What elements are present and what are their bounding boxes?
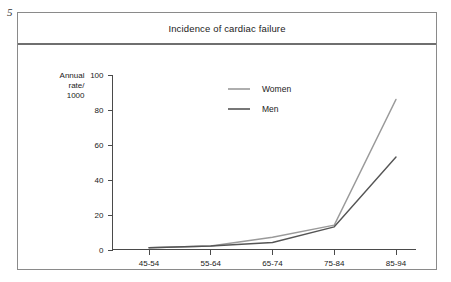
page-title: Incidence of cardiac failure [168,23,285,34]
chart-legend: WomenMen [228,84,291,114]
plot-area: 020406080100 45-5455-6465-7475-8485-94 A… [18,45,436,270]
x-tick-label: 55-64 [201,259,222,268]
y-tick-label: 60 [95,141,104,150]
legend-label-men: Men [262,104,279,114]
page-number: 5 [7,6,13,18]
x-tick-label: 85-94 [386,259,407,268]
x-tick-label: 65-74 [262,259,283,268]
figure-frame: Incidence of cardiac failure 02040608010… [17,12,437,270]
y-tick-label: 100 [90,71,104,80]
title-band: Incidence of cardiac failure [18,13,436,45]
legend-label-women: Women [262,84,291,94]
line-chart: 020406080100 45-5455-6465-7475-8485-94 A… [18,45,436,270]
x-tick-label: 75-84 [324,259,345,268]
y-axis-label: Annualrate/1000 [60,71,86,100]
axis-group [113,75,417,250]
y-tick-label: 20 [95,211,104,220]
y-tick-label: 80 [95,106,104,115]
x-tick-label-group: 45-5455-6465-7475-8485-94 [139,259,407,268]
y-tick-label-group: 020406080100 [90,71,104,255]
x-tick-label: 45-54 [139,259,160,268]
y-axis-label-line: rate/ [68,81,85,90]
y-tick-label: 0 [99,246,104,255]
y-tick-group [108,76,113,251]
x-tick-group [149,250,396,255]
y-tick-label: 40 [95,176,104,185]
series-line-women [149,99,396,247]
y-axis-label-line: Annual [60,71,85,80]
series-line-men [149,157,396,248]
y-axis-label-line: 1000 [67,91,85,100]
series-group [149,99,396,247]
